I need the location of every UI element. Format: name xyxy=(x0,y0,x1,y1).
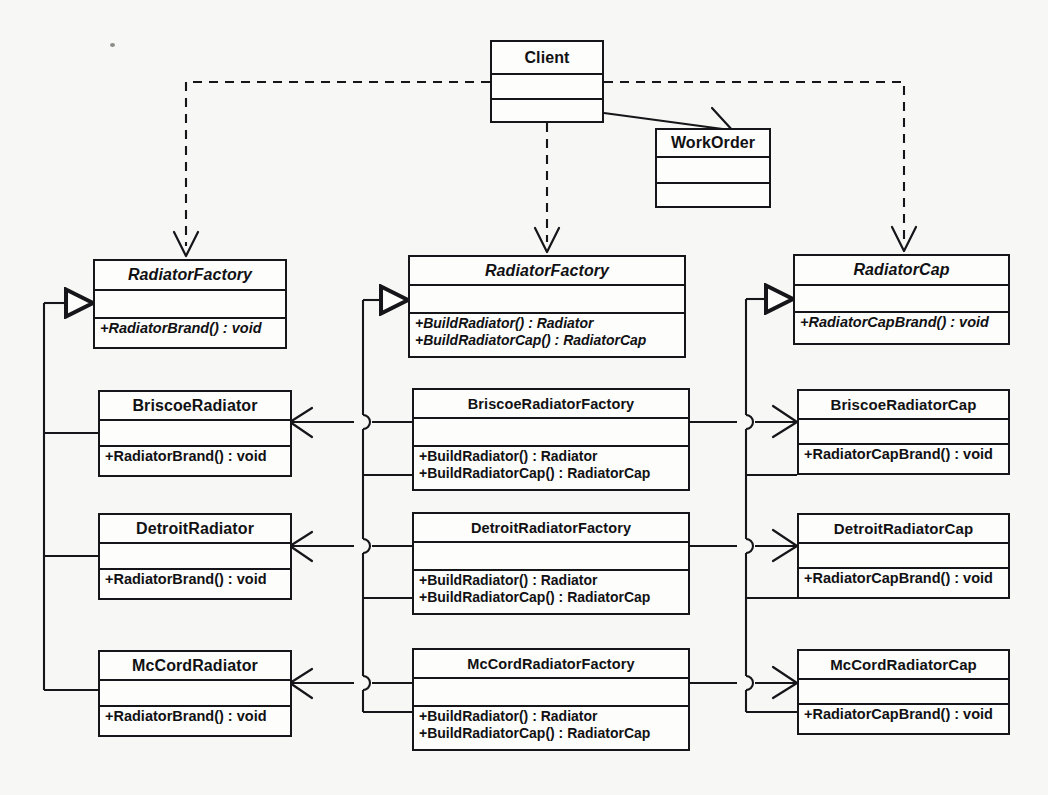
class-name-compartment: McCordRadiator xyxy=(100,652,290,681)
operation-line: +BuildRadiatorCap() : RadiatorCap xyxy=(417,725,685,742)
class-name-compartment: McCordRadiatorFactory xyxy=(414,650,688,679)
operation-line: +RadiatorBrand() : void xyxy=(98,320,282,337)
class-operations-compartment: +RadiatorBrand() : void xyxy=(100,570,290,590)
operation-line: +RadiatorBrand() : void xyxy=(103,708,287,725)
class-box-briscoe-factory[interactable]: BriscoeRadiatorFactory +BuildRadiator() … xyxy=(412,388,690,491)
operation-line: +RadiatorCapBrand() : void xyxy=(798,314,1005,331)
class-name-label: McCordRadiatorCap xyxy=(799,656,1008,673)
class-attributes-compartment xyxy=(657,158,769,184)
class-name-label: DetroitRadiatorCap xyxy=(799,520,1008,537)
class-attributes-compartment xyxy=(100,421,290,447)
class-attributes-compartment xyxy=(414,543,688,571)
operation-line: +RadiatorCapBrand() : void xyxy=(802,570,1005,587)
class-name-label: WorkOrder xyxy=(657,134,769,152)
class-name-compartment: RadiatorCap xyxy=(795,256,1008,286)
generalization-tree-radiator xyxy=(44,303,98,690)
dependency-arrowhead-cap xyxy=(892,227,916,251)
operation-line: +BuildRadiator() : Radiator xyxy=(417,708,685,725)
association-detroit-factory-to-radiator xyxy=(290,532,412,561)
class-operations-compartment: +BuildRadiator() : Radiator +BuildRadiat… xyxy=(410,314,684,350)
class-attributes-compartment xyxy=(799,420,1008,445)
class-attributes-compartment xyxy=(95,291,285,319)
operation-line: +BuildRadiator() : Radiator xyxy=(417,448,685,465)
class-attributes-compartment xyxy=(795,286,1008,313)
class-attributes-compartment xyxy=(799,544,1008,569)
class-box-client[interactable]: Client xyxy=(490,40,604,123)
class-name-label: BriscoeRadiator xyxy=(100,397,290,415)
class-name-label: RadiatorFactory xyxy=(410,262,684,280)
class-box-detroit-factory[interactable]: DetroitRadiatorFactory +BuildRadiator() … xyxy=(412,512,690,615)
dependency-client-to-radiator xyxy=(186,82,490,246)
class-operations-compartment: +RadiatorCapBrand() : void xyxy=(799,705,1008,725)
class-box-mccord-factory[interactable]: McCordRadiatorFactory +BuildRadiator() :… xyxy=(412,648,690,751)
association-mccord-factory-to-cap xyxy=(690,667,797,698)
operation-line: +RadiatorBrand() : void xyxy=(103,571,287,588)
class-operations-compartment: +RadiatorCapBrand() : void xyxy=(795,313,1008,333)
class-name-compartment: WorkOrder xyxy=(657,130,769,158)
class-name-compartment: BriscoeRadiatorCap xyxy=(799,391,1008,420)
operation-line: +RadiatorCapBrand() : void xyxy=(802,706,1005,723)
uml-class-diagram: Client WorkOrder RadiatorFactory +Radiat… xyxy=(0,0,1048,795)
class-box-radiator-abstract[interactable]: RadiatorFactory +RadiatorBrand() : void xyxy=(93,259,287,349)
class-attributes-compartment xyxy=(799,680,1008,705)
class-name-label: RadiatorCap xyxy=(795,261,1008,279)
class-name-compartment: BriscoeRadiator xyxy=(100,392,290,421)
class-operations-compartment xyxy=(492,100,602,103)
generalization-tree-factory xyxy=(363,300,412,712)
class-operations-compartment: +RadiatorCapBrand() : void xyxy=(799,569,1008,589)
class-name-compartment: DetroitRadiatorCap xyxy=(799,515,1008,544)
class-box-briscoe-cap[interactable]: BriscoeRadiatorCap +RadiatorCapBrand() :… xyxy=(797,389,1010,475)
class-name-label: DetroitRadiator xyxy=(100,520,290,538)
class-name-compartment: RadiatorFactory xyxy=(410,257,684,286)
class-box-factory-abstract[interactable]: RadiatorFactory +BuildRadiator() : Radia… xyxy=(408,255,686,358)
class-box-briscoe-radiator[interactable]: BriscoeRadiator +RadiatorBrand() : void xyxy=(98,390,292,477)
class-box-detroit-cap[interactable]: DetroitRadiatorCap +RadiatorCapBrand() :… xyxy=(797,513,1010,599)
scan-speck xyxy=(110,43,115,47)
class-name-compartment: Client xyxy=(492,42,602,75)
generalization-tree-cap xyxy=(746,299,797,712)
class-operations-compartment: +BuildRadiator() : Radiator +BuildRadiat… xyxy=(414,447,688,483)
class-name-compartment: RadiatorFactory xyxy=(95,261,285,291)
operation-line: +BuildRadiatorCap() : RadiatorCap xyxy=(417,589,685,606)
class-operations-compartment: +RadiatorBrand() : void xyxy=(95,319,285,339)
class-operations-compartment: +RadiatorCapBrand() : void xyxy=(799,445,1008,465)
class-box-work-order[interactable]: WorkOrder xyxy=(655,128,771,208)
class-name-label: BriscoeRadiatorCap xyxy=(799,396,1008,413)
class-name-label: McCordRadiator xyxy=(100,657,290,675)
class-box-detroit-radiator[interactable]: DetroitRadiator +RadiatorBrand() : void xyxy=(98,513,292,600)
class-operations-compartment: +BuildRadiator() : Radiator +BuildRadiat… xyxy=(414,571,688,607)
class-attributes-compartment xyxy=(414,419,688,447)
dependency-arrowhead-radiator xyxy=(174,232,198,256)
class-name-compartment: DetroitRadiator xyxy=(100,515,290,544)
operation-line: +BuildRadiatorCap() : RadiatorCap xyxy=(413,332,681,349)
class-box-mccord-radiator[interactable]: McCordRadiator +RadiatorBrand() : void xyxy=(98,650,292,737)
class-name-compartment: McCordRadiatorCap xyxy=(799,651,1008,680)
class-attributes-compartment xyxy=(410,286,684,314)
class-attributes-compartment xyxy=(414,679,688,707)
class-operations-compartment xyxy=(657,184,769,187)
class-box-cap-abstract[interactable]: RadiatorCap +RadiatorCapBrand() : void xyxy=(793,254,1010,345)
class-operations-compartment: +BuildRadiator() : Radiator +BuildRadiat… xyxy=(414,707,688,743)
operation-line: +BuildRadiator() : Radiator xyxy=(417,572,685,589)
association-detroit-factory-to-cap xyxy=(690,530,797,561)
association-briscoe-factory-to-radiator xyxy=(290,408,412,437)
class-name-label: Client xyxy=(492,49,602,67)
class-name-label: McCordRadiatorFactory xyxy=(414,656,688,672)
class-box-mccord-cap[interactable]: McCordRadiatorCap +RadiatorCapBrand() : … xyxy=(797,649,1010,735)
operation-line: +RadiatorCapBrand() : void xyxy=(802,446,1005,463)
association-briscoe-factory-to-cap xyxy=(690,406,797,437)
operation-line: +BuildRadiator() : Radiator xyxy=(413,315,681,332)
class-name-compartment: BriscoeRadiatorFactory xyxy=(414,390,688,419)
class-name-compartment: DetroitRadiatorFactory xyxy=(414,514,688,543)
class-operations-compartment: +RadiatorBrand() : void xyxy=(100,707,290,727)
class-name-label: DetroitRadiatorFactory xyxy=(414,520,688,536)
class-name-label: BriscoeRadiatorFactory xyxy=(414,396,688,412)
class-name-label: RadiatorFactory xyxy=(95,266,285,284)
class-attributes-compartment xyxy=(100,544,290,570)
operation-line: +BuildRadiatorCap() : RadiatorCap xyxy=(417,465,685,482)
class-attributes-compartment xyxy=(100,681,290,707)
association-mccord-factory-to-radiator xyxy=(290,669,412,698)
class-operations-compartment: +RadiatorBrand() : void xyxy=(100,447,290,467)
dependency-arrowhead-factory xyxy=(535,228,559,252)
class-attributes-compartment xyxy=(492,75,602,100)
